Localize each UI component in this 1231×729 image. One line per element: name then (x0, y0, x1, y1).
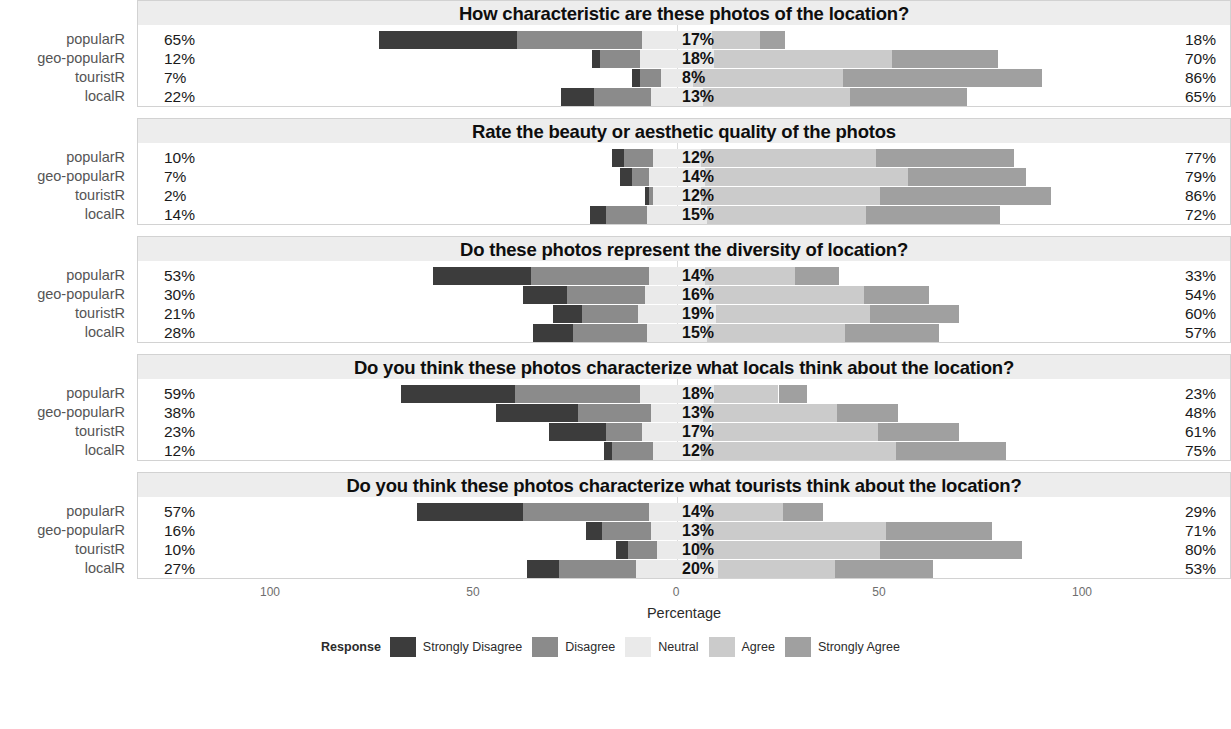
bar-segment (632, 69, 640, 87)
y-axis-label-geo-popularR: geo-popularR (0, 287, 125, 302)
bar-segment (712, 423, 878, 441)
agree-total-label: 23% (1185, 385, 1216, 403)
agree-total-label: 57% (1185, 324, 1216, 342)
legend: ResponseStrongly DisagreeDisagreeNeutral… (0, 637, 1231, 657)
legend-swatch-icon (709, 637, 735, 657)
x-axis: 10050050100 (137, 581, 1231, 605)
y-axis-labels: popularRgeo-popularRtouristRlocalR (0, 261, 131, 343)
neutral-total-label: 20% (682, 560, 714, 578)
bar-segment (606, 423, 643, 441)
neutral-total-label: 19% (682, 305, 714, 323)
y-axis-label-geo-popularR: geo-popularR (0, 51, 125, 66)
bar-segment (533, 324, 574, 342)
agree-total-label: 72% (1185, 206, 1216, 224)
legend-item[interactable]: Neutral (625, 637, 698, 657)
bar-row: 27%20%53% (138, 560, 1230, 578)
bar-row: 2%12%86% (138, 187, 1230, 205)
bar-segment (892, 50, 998, 68)
disagree-total-label: 23% (164, 423, 195, 441)
legend-item[interactable]: Disagree (532, 637, 615, 657)
plot-area: 53%14%33%30%16%54%21%19%60%28%15%57% (137, 261, 1231, 343)
disagree-total-label: 16% (164, 522, 195, 540)
panel-title: Rate the beauty or aesthetic quality of … (138, 121, 1230, 143)
legend-label: Strongly Agree (818, 640, 900, 654)
y-axis-label-touristR: touristR (0, 306, 125, 321)
bar-segment (703, 522, 886, 540)
disagree-total-label: 53% (164, 267, 195, 285)
bar-segment (567, 286, 644, 304)
legend-label: Disagree (565, 640, 615, 654)
bar-segment (880, 541, 1022, 559)
agree-total-label: 75% (1185, 442, 1216, 460)
bar-row: 7%8%86% (138, 69, 1230, 87)
bar-row: 57%14%29% (138, 503, 1230, 521)
y-axis-labels: popularRgeo-popularRtouristRlocalR (0, 25, 131, 107)
legend-item[interactable]: Strongly Agree (785, 637, 900, 657)
x-axis-tick-label: 50 (872, 585, 885, 599)
bar-segment (624, 149, 652, 167)
agree-total-label: 18% (1185, 31, 1216, 49)
bar-segment (527, 560, 559, 578)
y-axis-label-localR: localR (0, 89, 125, 104)
x-axis-tick-label: 0 (673, 585, 680, 599)
bar-segment (880, 187, 1051, 205)
panel-title: Do you think these photos characterize w… (138, 357, 1230, 379)
chart-panel: Rate the beauty or aesthetic quality of … (0, 118, 1231, 225)
legend-item[interactable]: Agree (709, 637, 775, 657)
agree-total-label: 86% (1185, 69, 1216, 87)
x-axis-tick-label: 50 (466, 585, 479, 599)
x-axis-tick-label: 100 (1072, 585, 1092, 599)
y-axis-label-touristR: touristR (0, 70, 125, 85)
legend-label: Neutral (658, 640, 698, 654)
chart-panel: Do these photos represent the diversity … (0, 236, 1231, 343)
bar-segment (632, 168, 648, 186)
y-axis-label-popularR: popularR (0, 150, 125, 165)
bar-segment (866, 206, 1000, 224)
bar-segment (523, 503, 649, 521)
bar-segment (760, 31, 784, 49)
bar-segment (561, 88, 593, 106)
neutral-total-label: 15% (682, 324, 714, 342)
legend-item[interactable]: Strongly Disagree (390, 637, 522, 657)
bar-segment (578, 404, 651, 422)
neutral-total-label: 16% (682, 286, 714, 304)
panel-header-strip: Do you think these photos characterize w… (137, 354, 1231, 379)
y-axis-label-geo-popularR: geo-popularR (0, 169, 125, 184)
y-axis-label-popularR: popularR (0, 386, 125, 401)
y-axis-label-popularR: popularR (0, 32, 125, 47)
bar-segment (553, 305, 581, 323)
bar-segment (640, 69, 660, 87)
plot-area: 59%18%23%38%13%48%23%17%61%12%12%75% (137, 379, 1231, 461)
bar-segment (701, 149, 876, 167)
bar-row: 65%17%18% (138, 31, 1230, 49)
bar-segment (876, 149, 1014, 167)
bar-segment (582, 305, 639, 323)
bar-segment (707, 324, 845, 342)
panel-body: popularRgeo-popularRtouristRlocalR65%17%… (0, 25, 1231, 107)
bar-row: 59%18%23% (138, 385, 1230, 403)
y-axis-label-touristR: touristR (0, 424, 125, 439)
neutral-total-label: 10% (682, 541, 714, 559)
agree-total-label: 79% (1185, 168, 1216, 186)
bar-segment (709, 286, 863, 304)
agree-total-label: 70% (1185, 50, 1216, 68)
bar-segment (878, 423, 959, 441)
y-axis-label-geo-popularR: geo-popularR (0, 523, 125, 538)
bar-segment (705, 267, 794, 285)
bar-segment (718, 560, 836, 578)
bar-segment (531, 267, 649, 285)
legend-swatch-icon (625, 637, 651, 657)
panel-header-strip: Do these photos represent the diversity … (137, 236, 1231, 261)
bar-segment (845, 324, 938, 342)
neutral-total-label: 17% (682, 423, 714, 441)
disagree-total-label: 59% (164, 385, 195, 403)
bar-row: 30%16%54% (138, 286, 1230, 304)
bar-segment (606, 206, 647, 224)
panel-header-strip: How characteristic are these photos of t… (137, 0, 1231, 25)
legend-swatch-icon (785, 637, 811, 657)
chart-panel: Do you think these photos characterize w… (0, 354, 1231, 461)
bar-segment (433, 267, 530, 285)
bar-segment (908, 168, 1026, 186)
disagree-total-label: 65% (164, 31, 195, 49)
agree-total-label: 60% (1185, 305, 1216, 323)
